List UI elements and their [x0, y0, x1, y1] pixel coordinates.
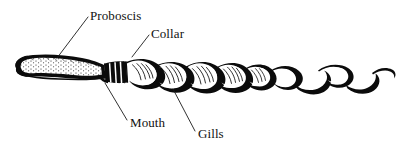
label-proboscis: Proboscis	[90, 8, 141, 23]
label-mouth: Mouth	[130, 115, 166, 130]
label-collar: Collar	[151, 26, 185, 41]
acorn-worm-figure: Proboscis Collar Mouth Gills	[0, 0, 397, 151]
label-gills: Gills	[198, 126, 224, 141]
diagram-canvas: Proboscis Collar Mouth Gills	[0, 0, 397, 151]
collar-shape	[104, 61, 128, 83]
